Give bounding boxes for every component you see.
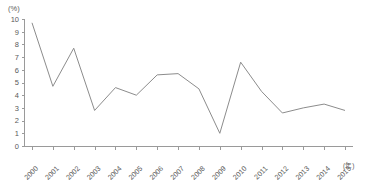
y-axis-tick-label: 5 (15, 78, 19, 87)
y-axis-tick-label: 6 (15, 66, 19, 75)
y-axis-tick-label: 2 (15, 116, 19, 125)
y-axis-tick-label: 4 (15, 91, 19, 100)
y-axis-unit-label: (%) (8, 4, 20, 13)
y-axis-tick-label: 1 (15, 129, 19, 138)
y-axis-tick-label: 10 (11, 15, 19, 24)
y-axis-tick-label: 7 (15, 53, 19, 62)
chart-background (0, 0, 369, 189)
chart-canvas: (%) 012345678910 20002001200220032004200… (0, 0, 369, 189)
y-axis-tick-label: 0 (15, 142, 19, 151)
y-axis-tick-label: 8 (15, 40, 19, 49)
line-chart: (%) 012345678910 20002001200220032004200… (0, 0, 369, 189)
y-axis-tick-label: 3 (15, 104, 19, 113)
y-axis-tick-label: 9 (15, 28, 19, 37)
x-axis-unit-label: (年) (343, 161, 354, 170)
